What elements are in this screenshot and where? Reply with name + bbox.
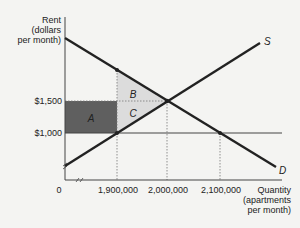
rent-control-diagram: Rent (dollars per month) $1,500 $1,000 0… [0,0,300,228]
supply-label: S [264,36,271,47]
y-tick-1500: $1,500 [34,96,62,106]
demand-label: D [279,165,286,176]
region-c-label: C [129,108,137,119]
x-tick-2100000: 2,100,000 [201,185,241,195]
y-axis-label-line2: (dollars [31,25,61,35]
y-tick-1000: $1,000 [34,128,62,138]
x-axis-label-line3: per month) [247,205,291,215]
y-axis-label-line3: per month) [17,35,61,45]
equilibrium-point [165,99,169,103]
ceiling-demand-point [218,131,222,135]
demand-point-1900000 [115,68,119,72]
region-a-label: A [87,113,95,124]
x-axis-label-line1: Quantity [257,185,291,195]
ceiling-supply-point [115,131,119,135]
y-axis-label-line1: Rent [42,15,62,25]
origin-label: 0 [56,185,61,195]
region-b-label: B [130,89,137,100]
x-axis-label-line2: (apartments [243,195,292,205]
x-tick-2000000: 2,000,000 [148,185,188,195]
x-tick-1900000: 1,900,000 [98,185,138,195]
